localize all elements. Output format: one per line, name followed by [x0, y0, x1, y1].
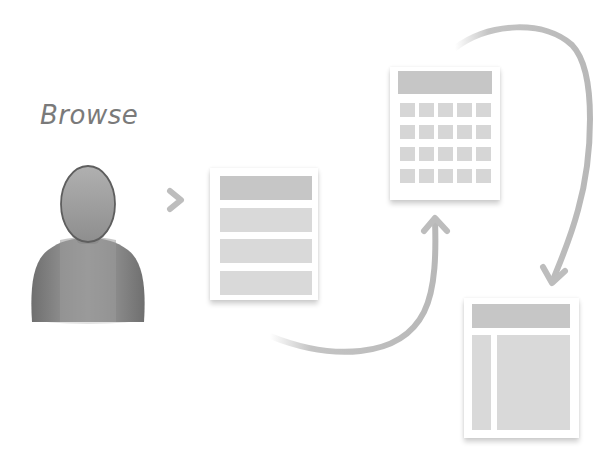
- detail-content: [497, 335, 570, 430]
- detail-header-bar: [472, 304, 570, 328]
- grid-header-bar: [398, 71, 492, 94]
- list-row: [220, 271, 312, 295]
- person-icon: [31, 166, 144, 324]
- list-header-bar: [220, 176, 312, 200]
- arrow-right-icon: [143, 191, 181, 209]
- list-page-thumbnail: [210, 168, 318, 300]
- list-row: [220, 239, 312, 263]
- detail-sidebar: [472, 335, 491, 430]
- detail-page-thumbnail: [464, 298, 579, 438]
- list-row: [220, 208, 312, 232]
- grid-page-thumbnail: [390, 67, 500, 200]
